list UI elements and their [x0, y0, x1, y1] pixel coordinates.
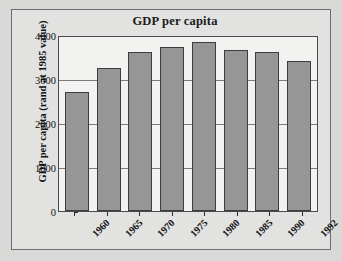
bar — [128, 52, 152, 211]
plot-area — [58, 36, 318, 212]
y-tick-label: 1000 — [22, 163, 56, 174]
bar — [224, 50, 248, 211]
bar-series — [59, 37, 317, 211]
x-tick-mark — [204, 212, 205, 216]
y-axis-ticks: 01000200030004000 — [16, 36, 56, 212]
y-tick-label: 0 — [22, 207, 56, 218]
x-tick-label: 1990 — [285, 217, 307, 239]
x-axis-labels: 19601965197019751980198519901992 — [58, 213, 318, 249]
bar — [97, 68, 121, 211]
x-tick-label: 1970 — [155, 217, 177, 239]
x-tick-mark — [172, 212, 173, 216]
x-tick-label: 1985 — [253, 217, 275, 239]
bar — [192, 42, 216, 211]
x-tick-mark — [139, 212, 140, 216]
x-tick-mark — [269, 212, 270, 216]
x-tick-label: 1965 — [123, 217, 145, 239]
y-tick-label: 4000 — [22, 31, 56, 42]
y-tick-label: 3000 — [22, 75, 56, 86]
bar — [287, 61, 311, 211]
bar — [255, 52, 279, 211]
x-tick-mark — [74, 212, 75, 216]
bar — [160, 47, 184, 211]
y-tick-label: 2000 — [22, 119, 56, 130]
x-tick-mark — [237, 212, 238, 216]
chart-title: GDP per capita — [30, 14, 320, 29]
chart-figure: GDP per capita GDP per capita (rand at 1… — [0, 0, 342, 261]
x-tick-mark — [107, 212, 108, 216]
x-tick-label: 1960 — [90, 217, 112, 239]
x-tick-label: 1975 — [188, 217, 210, 239]
x-tick-mark — [302, 212, 303, 216]
bar — [65, 92, 89, 211]
x-tick-label: 1980 — [220, 217, 242, 239]
